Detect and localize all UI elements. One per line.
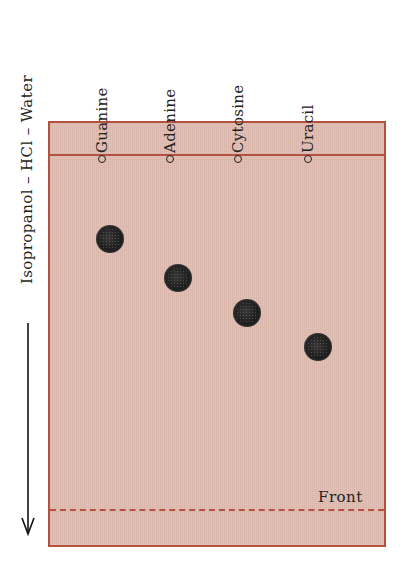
origin-dot-icon bbox=[166, 155, 174, 163]
spot-uracil bbox=[304, 333, 332, 361]
chromatography-plate bbox=[48, 121, 386, 547]
origin-dot-icon bbox=[304, 155, 312, 163]
solvent-front-line bbox=[50, 509, 384, 511]
lane-label-cytosine: Cytosine bbox=[230, 85, 246, 163]
lane-label-guanine: Guanine bbox=[94, 87, 110, 163]
front-label: Front bbox=[318, 488, 363, 506]
spot-cytosine bbox=[233, 299, 261, 327]
spot-guanine bbox=[96, 225, 124, 253]
spot-adenine bbox=[164, 264, 192, 292]
lane-label-adenine: Adenine bbox=[162, 89, 178, 163]
origin-dot-icon bbox=[98, 155, 106, 163]
lane-label-uracil: Uracil bbox=[300, 104, 316, 163]
solvent-system-label: Isopropanol – HCl – Water bbox=[18, 75, 36, 323]
origin-dot-icon bbox=[234, 155, 242, 163]
